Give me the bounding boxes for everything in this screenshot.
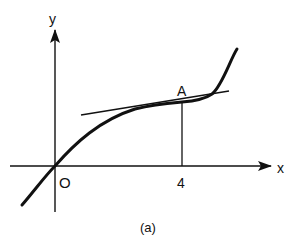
x-tick-label-4: 4	[177, 175, 185, 191]
figure-caption: (a)	[140, 220, 156, 235]
function-curve	[22, 49, 237, 205]
y-axis-label: y	[49, 11, 56, 27]
origin-label: O	[59, 174, 71, 191]
diagram-canvas: y x O 4 A (a)	[0, 0, 292, 245]
x-axis-label: x	[277, 160, 284, 176]
tangent-line	[81, 91, 229, 115]
point-a-label: A	[177, 83, 187, 99]
